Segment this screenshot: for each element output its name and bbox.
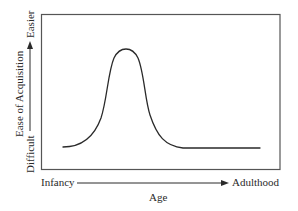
x-axis-start-label: Infancy — [41, 177, 75, 188]
x-axis-arrowhead-icon — [221, 180, 229, 186]
y-axis-start-label: Difficult — [25, 135, 36, 173]
y-axis-end-label: Easier — [25, 11, 36, 38]
y-axis-arrowhead-icon — [27, 41, 33, 49]
plot-frame — [42, 15, 281, 170]
x-axis-title: Age — [149, 192, 167, 203]
y-axis-title: Ease of Acquisition — [14, 51, 25, 137]
acquisition-curve — [63, 49, 260, 148]
x-axis-end-label: Adulthood — [232, 177, 279, 188]
